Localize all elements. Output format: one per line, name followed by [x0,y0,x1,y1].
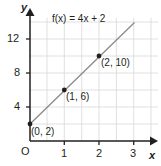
y-tick-label-4: 4 [14,101,20,112]
y-tick-label-8: 8 [14,67,20,78]
vertical-gridlines [47,18,151,141]
x-tick-label-3: 3 [130,148,136,159]
graph-canvas [0,0,161,166]
x-tick-label-1: 1 [61,148,67,159]
point-label-0-2: (0, 2) [31,127,54,137]
coordinate-plane-figure: y x O 12 8 4 1 2 3 f(x) = 4x + 2 (0, 2) … [0,0,161,166]
y-tick-label-12: 12 [7,33,19,44]
point-label-1-6: (1, 6) [66,92,89,102]
y-axis-label: y [21,2,27,13]
x-axis-label: x [149,150,155,161]
point-label-2-10: (2, 10) [101,58,130,68]
equation-annotation: f(x) = 4x + 2 [52,14,105,24]
x-axis-arrowhead [150,137,158,146]
horizontal-gridlines [30,22,158,124]
x-tick-label-2: 2 [96,148,102,159]
origin-label: O [21,146,30,157]
